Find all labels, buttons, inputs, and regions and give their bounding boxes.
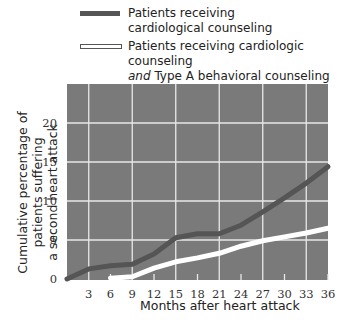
plot-area: [67, 84, 328, 280]
x-tick-label: 33: [299, 287, 314, 301]
y-axis-label: Cumulative percentage of patients suffer…: [15, 98, 60, 288]
x-tick-label: 9: [129, 287, 136, 301]
y-axis-label-line1: Cumulative percentage of patients suffer…: [15, 98, 45, 288]
x-axis-label: Months after heart attack: [140, 298, 300, 313]
x-tick-label: 36: [321, 287, 336, 301]
x-tick-label: 6: [107, 287, 114, 301]
y-axis-label-line2: a second heart attack: [45, 98, 60, 288]
x-tick-label: 3: [85, 287, 92, 301]
